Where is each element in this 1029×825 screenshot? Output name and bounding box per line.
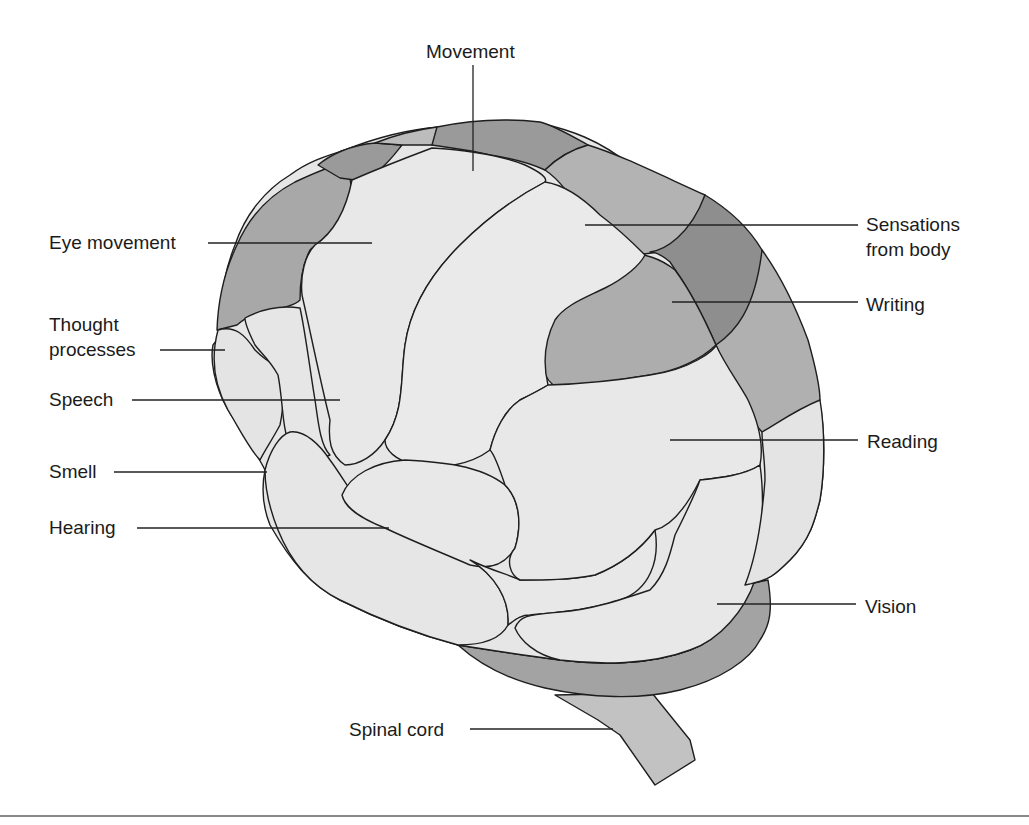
label-speech: Speech [49,388,113,411]
label-spinal-cord: Spinal cord [349,718,444,741]
brain-diagram: Movement Eye movement Thought processes … [0,0,1029,825]
label-thought-processes: Thought processes [49,313,136,361]
brain-illustration [0,0,1029,825]
label-thought-line1: Thought [49,313,136,336]
label-vision: Vision [865,595,916,618]
label-movement: Movement [426,40,515,63]
label-writing: Writing [866,293,925,316]
label-reading: Reading [867,430,938,453]
label-sensations-from-body: Sensations from body [866,213,960,261]
label-eye-movement: Eye movement [49,231,176,254]
label-smell: Smell [49,460,97,483]
bottom-divider [0,815,1029,817]
label-sensations-line2: from body [866,238,960,261]
label-hearing: Hearing [49,516,116,539]
label-thought-line2: processes [49,338,136,361]
spinal-cord-region [555,693,695,785]
label-sensations-line1: Sensations [866,213,960,236]
